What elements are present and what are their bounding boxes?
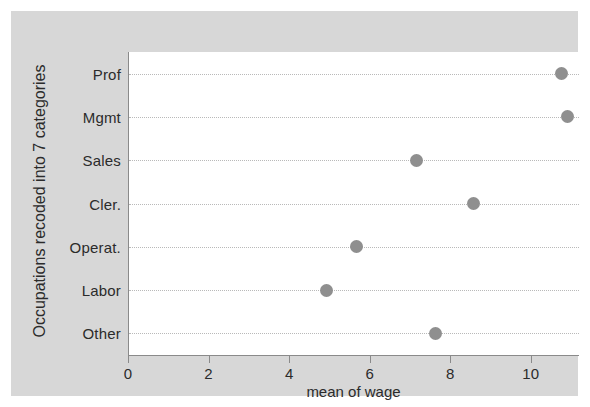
y-axis-tick-label: Mgmt — [83, 108, 121, 125]
x-axis-tick — [370, 356, 371, 363]
x-axis-tick-label: 6 — [365, 365, 373, 382]
x-axis-tick-label: 10 — [522, 365, 539, 382]
data-point[interactable] — [320, 284, 333, 297]
x-axis-tick — [450, 356, 451, 363]
data-point[interactable] — [555, 67, 568, 80]
y-axis-tick-labels: ProfMgmtSalesCler.Operat.LaborOther — [11, 52, 121, 355]
data-point[interactable] — [561, 110, 574, 123]
gridline — [129, 117, 579, 118]
gridline — [129, 290, 579, 291]
y-axis-tick-label: Operat. — [70, 238, 121, 255]
x-axis-line: 0246810 — [128, 355, 579, 356]
data-point[interactable] — [410, 154, 423, 167]
y-axis-tick-label: Sales — [82, 152, 121, 169]
x-axis-tick — [289, 356, 290, 363]
x-axis-title: mean of wage — [128, 383, 579, 400]
x-axis-tick-label: 0 — [124, 365, 132, 382]
y-axis-tick-label: Prof — [93, 65, 121, 82]
plot-area — [128, 52, 579, 355]
x-axis-tick — [209, 356, 210, 363]
figure-panel: Occupations recoded into 7 categories Pr… — [11, 11, 578, 396]
x-axis-tick — [128, 356, 129, 363]
y-axis-tick-label: Other — [82, 325, 121, 342]
x-axis-tick — [531, 356, 532, 363]
data-point[interactable] — [350, 240, 363, 253]
y-axis-tick-label: Labor — [82, 282, 121, 299]
gridline — [129, 204, 579, 205]
x-axis-tick-label: 4 — [285, 365, 293, 382]
data-point[interactable] — [467, 197, 480, 210]
gridline — [129, 74, 579, 75]
data-point[interactable] — [429, 327, 442, 340]
chart-screenshot: Occupations recoded into 7 categories Pr… — [0, 0, 590, 407]
x-axis-tick-label: 2 — [204, 365, 212, 382]
y-axis-tick-label: Cler. — [89, 195, 121, 212]
x-axis-tick-label: 8 — [446, 365, 454, 382]
gridline — [129, 333, 579, 334]
gridline — [129, 160, 579, 161]
